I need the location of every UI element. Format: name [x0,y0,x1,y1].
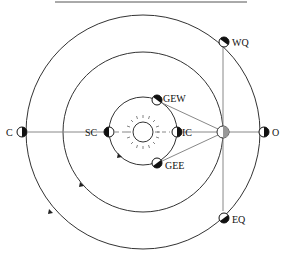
planet-gew [152,95,162,105]
planet-eastern-quadrature [219,213,229,223]
label-western-quadrature: WQ [232,37,249,48]
label-eastern-quadrature: EQ [232,214,246,225]
planet-superior-conjunction [104,127,114,137]
planet-inferior-conjunction [172,127,182,137]
planet-opposition [259,127,269,137]
label-gew: GEW [163,93,186,104]
outer-orbit-arrow-icon [48,209,53,214]
label-conjunction: C [6,127,13,138]
planet-gee [152,158,162,168]
label-superior-conjunction: SC [85,127,98,138]
label-opposition: O [272,127,279,138]
sun-icon [126,115,160,149]
planetary-configurations-diagram: C SC IC GEW GEE O WQ EQ [0,0,284,254]
planet-western-quadrature [219,37,229,47]
planet-conjunction [17,127,27,137]
earth-shade [223,126,229,138]
label-gee: GEE [165,160,184,171]
label-inferior-conjunction: IC [182,127,192,138]
